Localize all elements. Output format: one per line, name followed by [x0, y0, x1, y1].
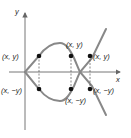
x-axis-label: x — [115, 75, 120, 84]
label-bottom-left: (x, −y) — [1, 86, 23, 95]
label-bottom-right: (x, −y) — [93, 86, 115, 95]
point-bottom-right — [88, 87, 93, 92]
point-bottom-middle — [69, 87, 74, 92]
label-bottom-middle: (x, −y) — [65, 96, 87, 105]
label-top-right: (x, y) — [93, 52, 110, 61]
label-top-left: (x, y) — [2, 52, 19, 61]
symmetry-diagram: x y (x, y) (x, y) (x, y) (x, −y) (x, −y)… — [0, 0, 131, 138]
point-top-middle — [69, 54, 74, 59]
point-top-left — [37, 54, 42, 59]
label-top-middle: (x, y) — [66, 40, 83, 49]
point-bottom-left — [37, 87, 42, 92]
y-axis-label: y — [14, 7, 20, 16]
point-top-right — [88, 54, 93, 59]
